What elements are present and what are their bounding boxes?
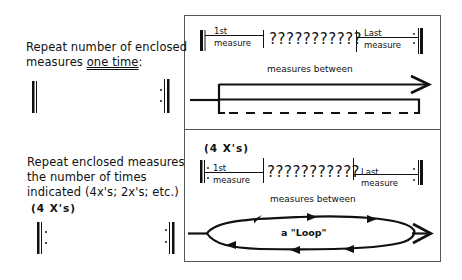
single-repeat-line-2-prefix: measures: [26, 55, 87, 69]
top-caption: measures between: [267, 64, 353, 74]
bottom-first-measure-top: 1st: [213, 163, 226, 173]
single-repeat-line-1: Repeat number of enclosed: [26, 40, 187, 55]
bottom-caption: measures between: [270, 194, 356, 204]
loop-label: a "Loop": [281, 228, 327, 238]
top-last-measure-top: Last: [364, 28, 382, 38]
end-repeat-bar-simple: [160, 79, 170, 113]
bottom-last-measure-top: Last: [361, 167, 379, 177]
top-middle-measures: ???????????: [269, 30, 362, 48]
multi-repeat-line-2: the number of times: [27, 170, 185, 185]
top-last-measure-bottom: measure: [364, 40, 401, 50]
multi-repeat-line-3: indicated (4x's; 2x's; etc.): [27, 185, 185, 200]
begin-repeat-bar-counted: [37, 222, 47, 254]
top-first-measure-bottom: measure: [214, 38, 251, 48]
begin-repeat-bar-simple: [32, 81, 37, 113]
single-repeat-description: Repeat number of enclosed measures one t…: [26, 40, 187, 70]
single-repeat-path: [190, 76, 429, 113]
end-repeat-bar-counted: [165, 222, 175, 254]
top-first-measure-top: 1st: [214, 26, 227, 36]
one-time-emphasis: one time: [87, 55, 139, 69]
box-count-label: (4 X's): [204, 142, 249, 154]
single-repeat-line-2-suffix: :: [139, 55, 143, 69]
multi-repeat-description: Repeat enclosed measures the number of t…: [27, 155, 185, 200]
multi-repeat-line-1: Repeat enclosed measures: [27, 155, 185, 170]
bottom-last-measure-bottom: measure: [361, 178, 398, 188]
bottom-middle-measures: ???????????: [267, 163, 360, 181]
left-count-label: (4 X's): [31, 202, 76, 214]
single-repeat-line-2: measures one time:: [26, 55, 187, 70]
bottom-first-measure-bottom: measure: [213, 175, 250, 185]
